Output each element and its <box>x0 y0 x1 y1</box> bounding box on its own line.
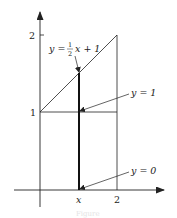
arrow-y-equals-0 <box>80 172 129 189</box>
upper-frac-num: 1 <box>68 41 72 49</box>
label-y-equals-1: y = 1 <box>130 87 156 98</box>
x-tick-label-2: 2 <box>114 194 120 205</box>
upper-frac-den: 2 <box>68 50 72 58</box>
arrow-y-equals-1 <box>80 94 129 111</box>
y-tick-label-2: 2 <box>29 30 35 41</box>
figure-caption: Figure <box>76 210 100 218</box>
diagram-canvas: 2 1 x 2 y = 1 2 x + 1 y = 1 y = 0 Figure <box>0 0 177 218</box>
arrow-upper-curve <box>75 56 79 72</box>
x-var-label: x <box>76 194 82 205</box>
label-y-equals-0: y = 0 <box>130 165 156 176</box>
y-tick-label-1: 1 <box>30 107 36 118</box>
upper-rhs: x + 1 <box>75 43 100 54</box>
label-upper-curve: y = 1 2 x + 1 <box>48 41 100 58</box>
upper-lhs: y = <box>48 43 65 54</box>
